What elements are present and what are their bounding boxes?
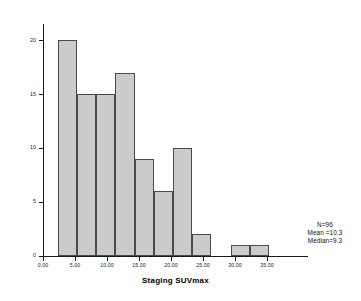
x-tick-mark: [107, 257, 108, 261]
median-label: Median=9.3: [296, 237, 354, 245]
x-tick-mark: [75, 257, 76, 261]
x-tick-mark: [171, 257, 172, 261]
histogram-bar: [250, 245, 269, 256]
x-tick-label: 25.00: [190, 263, 216, 268]
x-tick-label: 0.00: [30, 263, 56, 268]
histogram-bar: [154, 191, 173, 256]
histogram-bar: [192, 234, 211, 256]
histogram-bar: [77, 94, 96, 256]
x-tick-label: 30.00: [222, 263, 248, 268]
x-tick-label: 20.00: [158, 263, 184, 268]
x-tick-label: 10.00: [94, 263, 120, 268]
x-tick-label: 5.00: [62, 263, 88, 268]
x-tick-mark: [43, 257, 44, 261]
histogram-chart: 05101520 0.005.0010.0015.0020.0025.0030.…: [0, 0, 361, 301]
histogram-bar: [58, 40, 77, 256]
x-tick-label: 15.00: [126, 263, 152, 268]
x-tick-mark: [203, 257, 204, 261]
statistics-annotation: N=96 Mean =10.3 Median=9.3: [296, 221, 354, 246]
sample-size-label: N=96: [296, 221, 354, 229]
x-tick-mark: [235, 257, 236, 261]
histogram-bar: [96, 94, 115, 256]
histogram-bar: [115, 73, 134, 256]
x-tick-mark: [267, 257, 268, 261]
histogram-bar: [135, 159, 154, 256]
x-tick-mark: [139, 257, 140, 261]
x-axis-title: Staging SUVmax: [43, 276, 308, 285]
histogram-bar: [173, 148, 192, 256]
histogram-bar: [231, 245, 250, 256]
x-axis-line: [43, 256, 308, 257]
mean-label: Mean =10.3: [296, 229, 354, 237]
x-tick-label: 35.00: [254, 263, 280, 268]
